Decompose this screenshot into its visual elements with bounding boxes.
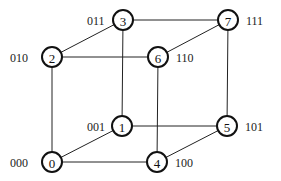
node-5: 5101 xyxy=(217,116,263,136)
node-1: 1001 xyxy=(87,116,132,136)
diagram-svg: 00001001201030114100510161107111 xyxy=(0,0,281,181)
node-binary-label: 110 xyxy=(176,51,194,65)
node-number-label: 4 xyxy=(154,156,161,171)
hypercube-diagram: 00001001201030114100510161107111 xyxy=(0,0,281,181)
node-number-label: 3 xyxy=(120,14,127,29)
node-7: 7111 xyxy=(218,10,263,30)
node-number-label: 7 xyxy=(225,14,232,29)
node-binary-label: 101 xyxy=(245,120,263,134)
edge-4-6 xyxy=(157,57,158,162)
node-number-label: 6 xyxy=(155,51,162,66)
node-binary-label: 001 xyxy=(87,120,105,134)
edge-5-7 xyxy=(227,20,228,126)
node-binary-label: 111 xyxy=(246,14,263,28)
node-number-label: 2 xyxy=(49,51,56,66)
node-2: 2010 xyxy=(10,47,62,67)
nodes-group: 00001001201030114100510161107111 xyxy=(10,10,263,172)
node-binary-label: 011 xyxy=(87,14,105,28)
edge-1-3 xyxy=(122,20,123,126)
edges-group xyxy=(52,20,228,162)
node-binary-label: 100 xyxy=(175,156,193,170)
node-0: 0000 xyxy=(10,152,62,172)
node-binary-label: 000 xyxy=(10,156,28,170)
node-number-label: 5 xyxy=(224,120,231,135)
node-binary-label: 010 xyxy=(10,51,28,65)
node-number-label: 0 xyxy=(49,156,56,171)
node-number-label: 1 xyxy=(119,120,126,135)
